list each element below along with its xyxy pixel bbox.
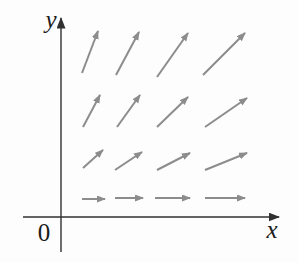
x-axis-label: x xyxy=(265,216,277,243)
y-axis-label: y xyxy=(42,6,57,33)
origin-label: 0 xyxy=(38,219,51,246)
vector-field-figure: y x 0 xyxy=(0,0,298,263)
vector-field-plot: y x 0 xyxy=(0,0,298,263)
